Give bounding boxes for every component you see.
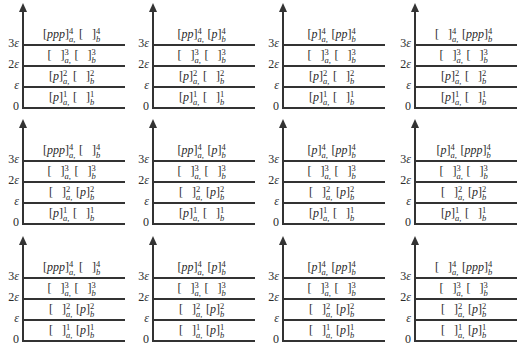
bracket-group-a: []4a, (435, 259, 462, 277)
y-axis (414, 242, 416, 341)
level-index: 4b (488, 259, 498, 277)
y-label-3: 3ε (391, 270, 411, 282)
group-content: ppp (466, 260, 484, 274)
bracket-group-b: []3b (467, 280, 494, 298)
open-bracket: [ (441, 323, 445, 337)
level-line-0 (414, 340, 517, 342)
y-label-1: ε (391, 312, 411, 324)
open-bracket: [ (467, 281, 471, 295)
open-bracket: [ (441, 302, 445, 316)
y-axis-arrow-icon (411, 236, 419, 245)
group-subscript: a, (458, 328, 464, 342)
level-index: 4a, (452, 259, 462, 277)
level-index: 2b (482, 301, 492, 319)
level-line-1 (414, 319, 517, 321)
epsilon-symbol: ε (406, 311, 411, 325)
level-index: 3a, (457, 280, 467, 298)
group-subscript: a, (452, 265, 458, 279)
level-line-2 (414, 298, 517, 300)
y-label-2: 2ε (391, 291, 411, 303)
energy-level-panel-r3-c4: 0 ε 2ε 3ε []1a,[p]1b[]2a,[p]2b[]3a,[]3b[… (0, 0, 524, 352)
epsilon-symbol: ε (406, 290, 411, 304)
bracket-group-b: [p]1b (468, 322, 492, 340)
open-bracket: [ (435, 260, 439, 274)
level-line-3 (414, 277, 517, 279)
level-index: 1b (482, 322, 492, 340)
group-subscript: b (482, 328, 486, 342)
group-subscript: a, (458, 307, 464, 321)
bracket-group-a: []1a, (441, 322, 468, 340)
level-index: 3b (484, 280, 494, 298)
y-label-0: 0 (391, 333, 411, 345)
level-1-occupancy: []1a,[p]1b (418, 322, 515, 340)
level-4-occupancy: []4a,[ppp]4b (418, 259, 515, 277)
bracket-group-a: []3a, (440, 280, 467, 298)
group-subscript: b (482, 307, 486, 321)
y-label-coef: 0 (405, 332, 411, 346)
group-subscript: b (488, 265, 492, 279)
group-subscript: b (484, 286, 488, 300)
bracket-group-a: []2a, (441, 301, 468, 319)
epsilon-symbol: ε (406, 269, 411, 283)
level-index: 2a, (458, 301, 468, 319)
level-2-occupancy: []2a,[p]2b (418, 301, 515, 319)
group-subscript: a, (457, 286, 463, 300)
bracket-group-b: [p]2b (468, 301, 492, 319)
open-bracket: [ (440, 281, 444, 295)
bracket-group-b: [ppp]4b (462, 259, 498, 277)
level-index: 1a, (458, 322, 468, 340)
level-3-occupancy: []3a,[]3b (418, 280, 515, 298)
